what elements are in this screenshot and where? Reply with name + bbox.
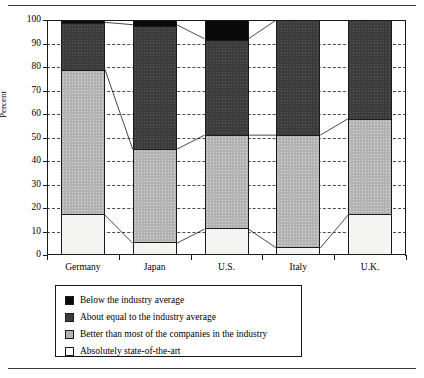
connector-line bbox=[249, 20, 277, 39]
y-tick-label: 30 bbox=[15, 180, 41, 190]
connector-line bbox=[105, 215, 133, 243]
x-tick-mark bbox=[406, 255, 407, 260]
swatch-black-icon bbox=[65, 296, 74, 305]
y-tick-label: 100 bbox=[15, 15, 41, 25]
y-tick-label: 60 bbox=[15, 109, 41, 119]
legend-item[interactable]: Better than most of the companies in the… bbox=[65, 326, 301, 342]
swatch-mid-gray-icon bbox=[65, 330, 74, 339]
x-tick-label: Italy bbox=[263, 262, 333, 272]
y-tick-label: 20 bbox=[15, 203, 41, 213]
x-tick-mark bbox=[334, 255, 335, 260]
connector-line bbox=[320, 215, 348, 248]
connector-line bbox=[105, 22, 133, 24]
x-tick-label: U.S. bbox=[192, 262, 262, 272]
connector-line bbox=[320, 119, 348, 135]
connector-line bbox=[177, 25, 205, 39]
y-tick-label: 80 bbox=[15, 62, 41, 72]
segment-connector-lines bbox=[47, 20, 406, 255]
x-tick-label: Japan bbox=[120, 262, 190, 272]
connector-line bbox=[249, 229, 277, 248]
y-tick-label: 50 bbox=[15, 133, 41, 143]
y-tick-label: 0 bbox=[15, 250, 41, 260]
legend-item[interactable]: Below the industry average bbox=[65, 292, 301, 308]
connector-line bbox=[177, 229, 205, 243]
legend-label: About equal to the industry average bbox=[80, 312, 216, 322]
y-tick-label: 10 bbox=[15, 227, 41, 237]
swatch-white-icon bbox=[65, 347, 74, 356]
swatch-dark-gray-icon bbox=[65, 313, 74, 322]
x-tick-mark bbox=[119, 255, 120, 260]
y-tick-label: 90 bbox=[15, 39, 41, 49]
y-tick-label: 70 bbox=[15, 86, 41, 96]
y-axis-label: Percent bbox=[0, 91, 8, 118]
bottom-divider bbox=[8, 368, 416, 369]
y-tick-label: 40 bbox=[15, 156, 41, 166]
connector-line bbox=[177, 135, 205, 149]
legend-label: Below the industry average bbox=[80, 295, 184, 305]
legend-label: Absolutely state-of-the-art bbox=[80, 346, 181, 356]
chart-figure: Percent 0102030405060708090100 GermanyJa… bbox=[0, 0, 424, 378]
legend-item[interactable]: About equal to the industry average bbox=[65, 309, 301, 325]
x-tick-mark bbox=[47, 255, 48, 260]
connector-line bbox=[105, 69, 133, 149]
x-tick-label: U.K. bbox=[335, 262, 405, 272]
legend-item[interactable]: Absolutely state-of-the-art bbox=[65, 343, 301, 359]
x-tick-mark bbox=[262, 255, 263, 260]
x-tick-label: Germany bbox=[48, 262, 118, 272]
top-caption bbox=[36, 0, 388, 2]
legend-label: Better than most of the companies in the… bbox=[80, 329, 267, 339]
x-tick-mark bbox=[191, 255, 192, 260]
legend: Below the industry averageAbout equal to… bbox=[55, 285, 302, 357]
top-divider bbox=[8, 5, 416, 6]
